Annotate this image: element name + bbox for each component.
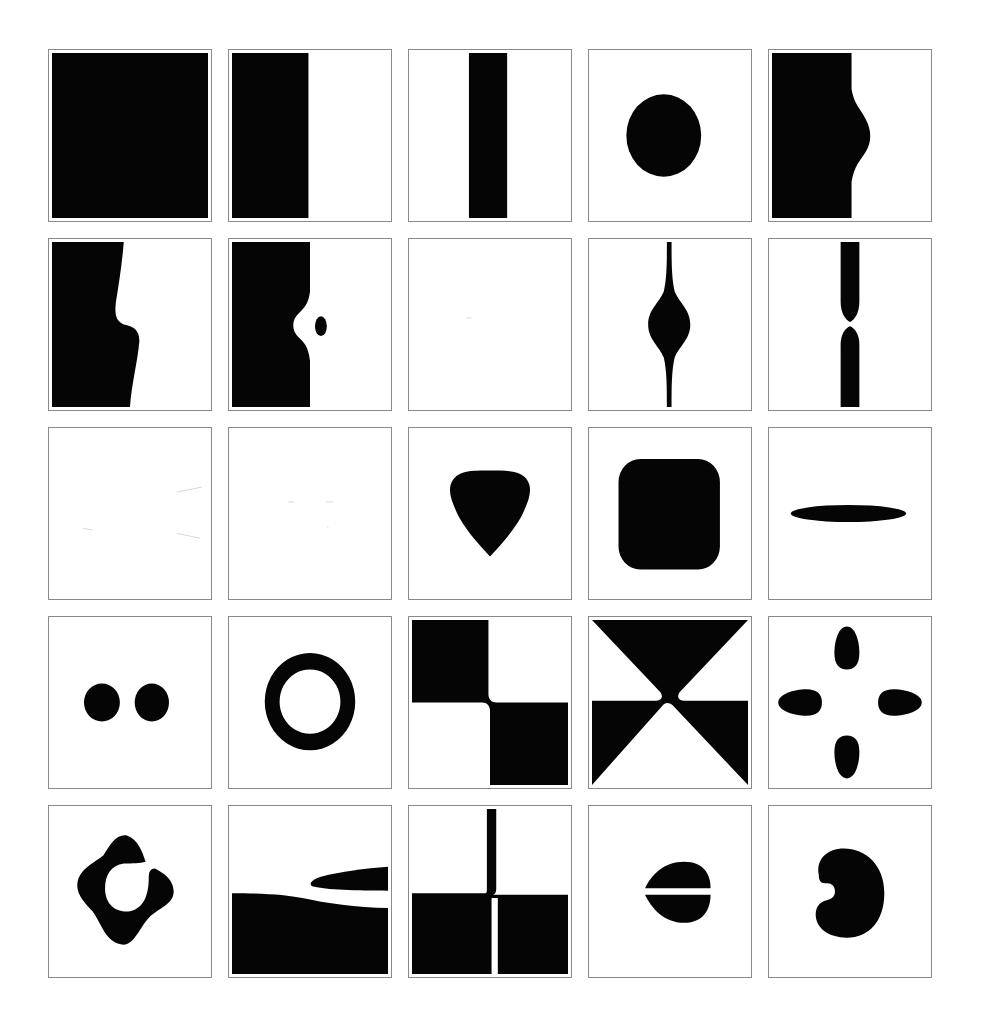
panel-left-half-black [228, 49, 392, 222]
panel-left-block-with-notch-and-dot [228, 238, 392, 411]
panel-left-block-with-step [48, 238, 212, 411]
panel-rounded-square [588, 427, 752, 600]
panel-horizontal-ellipse [768, 427, 932, 600]
inverted-t-with-slit-shape [412, 809, 568, 974]
four-petals-shape [772, 620, 928, 785]
blank-shape [412, 242, 568, 407]
checker-diagonal-shape [412, 620, 568, 785]
ring-shape [232, 620, 388, 785]
hourglass-bowtie-shape [592, 620, 748, 785]
rounded-square-shape [592, 431, 748, 596]
horizontal-ellipse-shape [772, 431, 928, 596]
panel-blank [408, 238, 572, 411]
panel-split-lens [588, 805, 752, 978]
left-block-with-notch-and-dot-shape [232, 242, 388, 407]
panel-rounded-triangle [408, 427, 572, 600]
left-block-with-step-shape [52, 242, 208, 407]
panel-full-black-square [48, 49, 212, 222]
panel-four-petals [768, 616, 932, 789]
panel-kidney-pacman [768, 805, 932, 978]
panel-open-ring-blob [48, 805, 212, 978]
bottom-block-with-wedge-shape [232, 809, 388, 974]
full-black-square-shape [52, 53, 208, 218]
panel-two-dots [48, 616, 212, 789]
spindle-shape [592, 242, 748, 407]
panel-bottom-block-with-wedge [228, 805, 392, 978]
panel-faint-blank-2 [228, 427, 392, 600]
shape-grid [48, 49, 932, 978]
faint-blank-shape-1 [52, 431, 208, 596]
vertical-bar-shape [412, 53, 568, 218]
panel-vertical-bar [408, 49, 572, 222]
panel-faint-blank-1 [48, 427, 212, 600]
panel-checker-diagonal [408, 616, 572, 789]
circle-shape [592, 53, 748, 218]
two-dots-shape [52, 620, 208, 785]
panel-inverted-t-with-slit [408, 805, 572, 978]
open-ring-blob-shape [52, 809, 208, 974]
pinched-bar-shape [772, 242, 928, 407]
panel-ring [228, 616, 392, 789]
panel-left-block-with-bulge [768, 49, 932, 222]
panel-hourglass-bowtie [588, 616, 752, 789]
rounded-triangle-shape [412, 431, 568, 596]
left-block-with-bulge-shape [772, 53, 928, 218]
panel-spindle [588, 238, 752, 411]
left-half-black-shape [232, 53, 388, 218]
panel-circle [588, 49, 752, 222]
faint-blank-shape-2 [232, 431, 388, 596]
panel-pinched-bar [768, 238, 932, 411]
kidney-pacman-shape [772, 809, 928, 974]
split-lens-shape [592, 809, 748, 974]
